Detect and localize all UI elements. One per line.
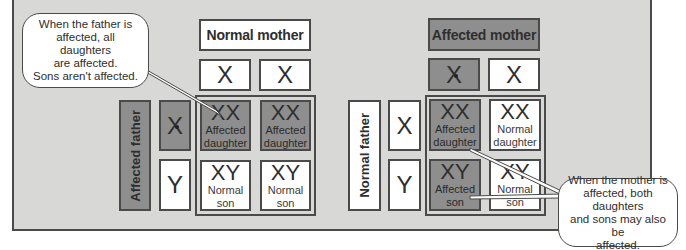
- phenotype-label: Normal: [497, 123, 532, 136]
- allele-y: Y: [167, 173, 183, 197]
- phenotype-label: Affected: [205, 124, 245, 137]
- callout-text: affected, both daughters: [567, 187, 669, 213]
- phenotype-label: Normal: [268, 184, 303, 197]
- sex-label: daughter: [204, 137, 247, 150]
- offspring-cell: XY Normal son: [260, 160, 311, 211]
- allele-x: X: [217, 63, 233, 87]
- sex-label: daughter: [433, 136, 476, 149]
- sex-label: daughter: [264, 137, 307, 150]
- father-label-text: Normal father: [357, 113, 372, 198]
- phenotype-label: Normal: [208, 184, 243, 197]
- genotype: XY: [211, 162, 240, 184]
- allele-x: X: [506, 63, 522, 87]
- father-affected-callout: When the father is affected, all daughte…: [22, 13, 149, 88]
- genotype: XY: [500, 161, 529, 183]
- mother-affected-callout: When the mother is affected, both daught…: [558, 178, 678, 247]
- affected-mother-header: Affected mother: [428, 18, 540, 51]
- allele-x: X: [396, 114, 412, 138]
- father-allele-x: X: [388, 100, 421, 151]
- genotype: XY: [440, 161, 469, 183]
- offspring-cell: XY Normal son: [200, 160, 251, 211]
- genotype: XX: [211, 102, 240, 124]
- callout-text: affected, all daughters: [31, 31, 140, 57]
- sex-label: son: [506, 196, 524, 209]
- mother-allele-2: X: [488, 58, 540, 91]
- mother-allele-2: X: [259, 59, 311, 91]
- sex-label: daughter: [493, 136, 536, 149]
- normal-mother-header: Normal mother: [199, 19, 311, 51]
- phenotype-label: Normal: [497, 183, 532, 196]
- affected-father-label: Affected father: [119, 100, 151, 211]
- allele-x-affected: X: [446, 63, 462, 87]
- offspring-cell: XY Affected son: [429, 159, 481, 211]
- allele-x: X: [277, 63, 293, 87]
- father-allele-y: Y: [159, 159, 191, 211]
- allele-x-affected: X: [167, 114, 183, 138]
- callout-text: affected.: [596, 239, 640, 250]
- genotype: XY: [271, 162, 300, 184]
- callout-text: and sons may also be: [567, 213, 669, 239]
- offspring-cell: XX Affected daughter: [200, 100, 251, 151]
- callout-text: are affected.: [54, 57, 118, 70]
- genotype: XX: [440, 101, 469, 123]
- phenotype-label: Affected: [435, 123, 475, 136]
- header-text: Normal mother: [207, 27, 304, 43]
- callout-text: When the father is: [39, 18, 132, 31]
- mother-allele-1: X: [428, 58, 480, 91]
- normal-father-label: Normal father: [348, 100, 381, 211]
- callout-text: When the mother is: [568, 174, 668, 187]
- father-allele-x: X: [159, 100, 191, 151]
- sex-label: son: [277, 197, 295, 210]
- sex-label: son: [446, 196, 464, 209]
- allele-y: Y: [396, 173, 412, 197]
- phenotype-label: Affected: [265, 124, 305, 137]
- father-label-text: Affected father: [128, 110, 143, 202]
- genotype: XX: [500, 101, 529, 123]
- father-allele-y: Y: [388, 159, 421, 211]
- offspring-cell: XY Normal son: [489, 159, 541, 211]
- sex-label: son: [217, 197, 235, 210]
- callout-text: Sons aren't affected.: [33, 70, 138, 83]
- mother-allele-1: X: [199, 59, 251, 91]
- offspring-cell: XX Normal daughter: [489, 99, 541, 151]
- offspring-cell: XX Affected daughter: [429, 99, 481, 151]
- header-text: Affected mother: [432, 27, 536, 43]
- offspring-cell: XX Affected daughter: [260, 100, 311, 151]
- genotype: XX: [271, 102, 300, 124]
- phenotype-label: Affected: [435, 183, 475, 196]
